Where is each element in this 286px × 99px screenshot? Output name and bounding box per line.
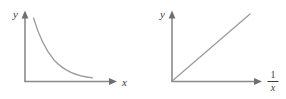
right-chart-axes [169, 11, 262, 85]
y-axis-arrow-left [22, 11, 29, 19]
figure-root: y x y 1 x [0, 0, 286, 99]
x-axis-arrow-right [254, 78, 262, 85]
left-chart-axes [22, 11, 117, 85]
y-axis-label-left: y [12, 8, 18, 20]
y-axis-arrow-right [169, 11, 176, 19]
chart-panel-inverse-curve: y x [0, 0, 143, 99]
chart-panel-linear-line: y 1 x [143, 0, 286, 99]
proportional-straight-line [173, 14, 251, 81]
fraction-denominator-x: x [270, 82, 276, 93]
x-axis-arrow-left [109, 78, 117, 85]
fraction-numerator-1: 1 [271, 69, 276, 80]
x-axis-label-fraction-right: 1 x [268, 69, 279, 93]
x-axis-label-left: x [121, 76, 127, 88]
inverse-proportional-curve [34, 18, 93, 78]
y-axis-label-right: y [159, 8, 165, 20]
